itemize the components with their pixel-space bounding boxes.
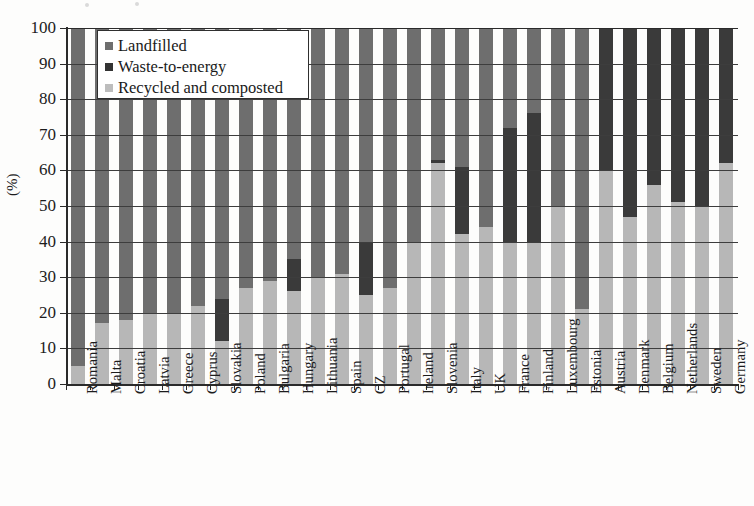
x-tick-label-austria: Austria bbox=[612, 351, 629, 394]
x-tick-label-slovakia: Slovakia bbox=[228, 342, 245, 394]
x-tick-label-netherlands: Netherlands bbox=[684, 323, 701, 394]
bar-uk bbox=[479, 28, 493, 384]
x-tick-label-greece: Greece bbox=[180, 352, 197, 394]
x-tick-mark bbox=[66, 384, 67, 390]
y-axis-spine bbox=[66, 27, 68, 386]
x-tick-label-romania: Romania bbox=[84, 341, 101, 394]
y-tick-label: 20 bbox=[12, 304, 56, 321]
bar-portugal bbox=[383, 28, 397, 384]
x-tick-label-slovenia: Slovenia bbox=[444, 342, 461, 394]
segment-landfilled bbox=[503, 28, 517, 128]
x-tick-label-cz: CZ bbox=[372, 375, 389, 394]
x-tick-label-italy: Italy bbox=[468, 367, 485, 394]
segment-landfilled bbox=[527, 28, 541, 113]
segment-waste-to-energy bbox=[359, 242, 373, 295]
segment-landfilled bbox=[335, 28, 349, 274]
y-tick-label: 80 bbox=[12, 90, 56, 107]
y-tick-label: 0 bbox=[12, 375, 56, 392]
segment-landfilled bbox=[383, 28, 397, 288]
segment-recycled-and-composted bbox=[503, 242, 517, 384]
bar-ireland bbox=[407, 28, 421, 384]
segment-landfilled bbox=[431, 28, 445, 160]
x-tick-label-latvia: Latvia bbox=[156, 356, 173, 394]
y-tick-label: 30 bbox=[12, 268, 56, 285]
bar-spain bbox=[335, 28, 349, 384]
segment-landfilled bbox=[359, 28, 373, 242]
legend-swatch-recycled-and-composted bbox=[105, 84, 113, 92]
x-tick-label-lithuania: Lithuania bbox=[324, 338, 341, 394]
x-tick-label-uk: UK bbox=[492, 373, 509, 394]
segment-recycled-and-composted bbox=[71, 366, 85, 384]
x-tick-label-denmark: Denmark bbox=[636, 339, 653, 394]
segment-recycled-and-composted bbox=[383, 288, 397, 384]
x-tick-label-spain: Spain bbox=[348, 360, 365, 394]
legend-item-recycled-and-composted: Recycled and composted bbox=[105, 77, 302, 98]
legend-item-waste-to-energy: Waste-to-energy bbox=[105, 56, 302, 77]
segment-waste-to-energy bbox=[527, 113, 541, 241]
segment-waste-to-energy bbox=[455, 167, 469, 235]
segment-waste-to-energy bbox=[503, 128, 517, 242]
segment-landfilled bbox=[479, 28, 493, 227]
y-tick-label: 60 bbox=[12, 161, 56, 178]
bar-netherlands bbox=[671, 28, 685, 384]
bar-italy bbox=[455, 28, 469, 384]
segment-waste-to-energy bbox=[287, 259, 301, 291]
segment-waste-to-energy bbox=[599, 28, 613, 170]
bar-austria bbox=[599, 28, 613, 384]
scan-artifact bbox=[135, 2, 139, 6]
legend-label-landfilled: Landfilled bbox=[118, 36, 187, 56]
segment-landfilled bbox=[575, 28, 589, 309]
legend-label-waste-to-energy: Waste-to-energy bbox=[118, 57, 226, 77]
x-tick-label-finland: Finland bbox=[540, 349, 557, 394]
x-tick-label-germany: Germany bbox=[732, 339, 749, 394]
y-tick-label: 40 bbox=[12, 233, 56, 250]
x-tick-label-hungary: Hungary bbox=[300, 343, 317, 394]
x-tick-label-sweden: Sweden bbox=[708, 347, 725, 394]
segment-landfilled bbox=[455, 28, 469, 167]
stacked-bar-chart-figure: (%) 0102030405060708090100 RomaniaMaltaC… bbox=[0, 0, 754, 506]
bar-finland bbox=[527, 28, 541, 384]
x-tick-label-bulgaria: Bulgaria bbox=[276, 343, 293, 394]
bar-france bbox=[503, 28, 517, 384]
y-tick-label: 100 bbox=[12, 19, 56, 36]
segment-landfilled bbox=[407, 28, 421, 242]
y-tick-label: 50 bbox=[12, 197, 56, 214]
x-tick-label-poland: Poland bbox=[252, 353, 269, 394]
x-tick-label-estonia: Estonia bbox=[588, 350, 605, 394]
bar-slovenia bbox=[431, 28, 445, 384]
segment-waste-to-energy bbox=[623, 28, 637, 217]
segment-waste-to-energy bbox=[647, 28, 661, 185]
y-tick-label: 10 bbox=[12, 339, 56, 356]
segment-landfilled bbox=[551, 28, 565, 206]
x-tick-label-cyprus: Cyprus bbox=[204, 352, 221, 395]
legend-label-recycled-and-composted: Recycled and composted bbox=[118, 78, 283, 98]
segment-waste-to-energy bbox=[671, 28, 685, 202]
legend-swatch-landfilled bbox=[105, 42, 113, 50]
legend: Landfilled Waste-to-energy Recycled and … bbox=[97, 30, 309, 99]
segment-waste-to-energy bbox=[215, 299, 229, 342]
x-tick-label-france: France bbox=[516, 354, 533, 394]
y-tick-label: 90 bbox=[12, 55, 56, 72]
y-tick-label: 70 bbox=[12, 126, 56, 143]
bar-romania bbox=[71, 28, 85, 384]
segment-recycled-and-composted bbox=[431, 163, 445, 384]
x-tick-label-malta: Malta bbox=[108, 360, 125, 394]
bar-germany bbox=[719, 28, 733, 384]
x-tick-label-belgium: Belgium bbox=[660, 343, 677, 394]
segment-landfilled bbox=[311, 28, 325, 277]
segment-recycled-and-composted bbox=[479, 227, 493, 384]
bar-lithuania bbox=[311, 28, 325, 384]
segment-waste-to-energy bbox=[695, 28, 709, 206]
scan-artifact bbox=[85, 3, 89, 7]
segment-landfilled bbox=[71, 28, 85, 366]
segment-waste-to-energy bbox=[719, 28, 733, 163]
x-tick-label-croatia: Croatia bbox=[132, 351, 149, 394]
x-tick-label-ireland: Ireland bbox=[420, 352, 437, 394]
x-tick-label-luxembourg: Luxembourg bbox=[564, 318, 581, 394]
legend-swatch-waste-to-energy bbox=[105, 63, 113, 71]
bar-belgium bbox=[647, 28, 661, 384]
bar-cz bbox=[359, 28, 373, 384]
x-tick-label-portugal: Portugal bbox=[396, 344, 413, 394]
bar-luxembourg bbox=[551, 28, 565, 384]
bar-denmark bbox=[623, 28, 637, 384]
